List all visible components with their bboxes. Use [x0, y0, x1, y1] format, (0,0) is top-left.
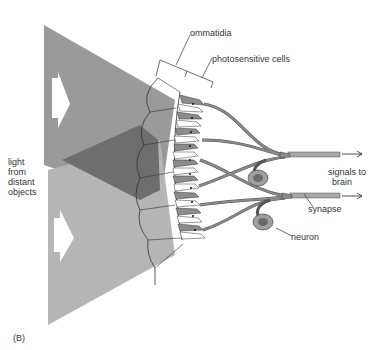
- photosensitive-cells-label: photosensitive cells: [212, 54, 290, 64]
- upper-axon: [288, 152, 340, 157]
- lower-axon: [290, 193, 340, 198]
- photosensitive-cell-array: [173, 95, 205, 239]
- neuron-upper: [248, 160, 268, 186]
- compound-eye-diagram: ommatidia photosensitive cells light fro…: [0, 0, 382, 350]
- ommatidia-bracket: [156, 60, 213, 88]
- neuron-label: neuron: [291, 232, 319, 242]
- panel-label: (B): [13, 333, 25, 343]
- light-from-distant-objects-label: light from distant objects: [8, 157, 37, 197]
- synapse-label: synapse: [308, 204, 342, 214]
- ommatidia-label: ommatidia: [190, 28, 232, 38]
- signals-to-brain-label: signals to brain: [328, 167, 366, 187]
- diagram-canvas: [0, 0, 382, 350]
